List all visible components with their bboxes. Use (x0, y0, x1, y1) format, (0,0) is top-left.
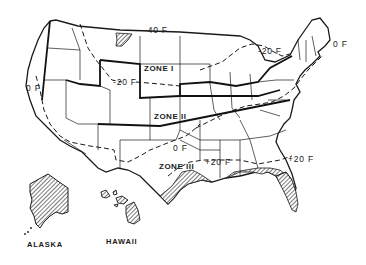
florida-hatched (276, 172, 298, 212)
isotherm-label-zero-east: 0 F (333, 40, 348, 49)
alaska-inset (30, 174, 68, 228)
hawaii-inset (101, 190, 140, 224)
zone-1-label: ZONE I (144, 65, 174, 73)
alaska-label: ALASKA (27, 241, 63, 249)
us-zone-map (0, 0, 366, 265)
zone-3-label: ZONE III (159, 163, 194, 171)
zone-2-label: ZONE II (154, 113, 186, 121)
isotherm-label-zero-south: 0 F (173, 144, 188, 153)
isotherm-label-minus-20-east: -20 F (258, 47, 282, 56)
isotherm-label-plus-20-gulf: +20 F (205, 158, 231, 167)
hawaii-label: HAWAII (106, 238, 137, 246)
gulf-coast-hatched (160, 170, 212, 204)
isotherm-label-minus-20-west: -20 F (113, 78, 137, 87)
isotherm-label-minus-40: -40 F (144, 26, 168, 35)
montana-hatched-patch (116, 33, 132, 46)
isotherm-label-zero-west: 0 F (26, 84, 41, 93)
isotherm-label-plus-20-atlantic: +20 F (288, 155, 314, 164)
zone-boundaries (42, 21, 292, 126)
